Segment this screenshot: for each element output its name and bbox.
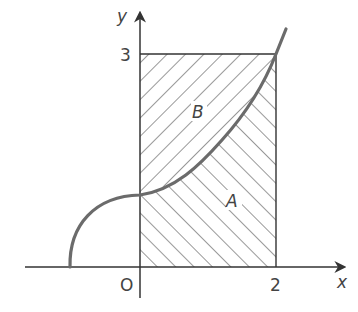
region-b-label: B (192, 102, 204, 122)
origin-label: O (120, 275, 133, 295)
y-tick-label: 3 (120, 45, 131, 65)
x-axis-label: x (336, 272, 348, 292)
y-axis-label: y (116, 6, 128, 26)
x-tick-label: 2 (270, 275, 281, 295)
area-diagram: y 3 O 2 x B A (0, 0, 358, 312)
region-a-label: A (225, 191, 238, 211)
